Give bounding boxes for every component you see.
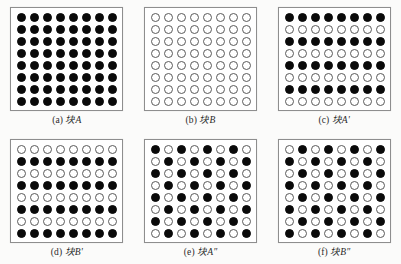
grid-cell (374, 95, 387, 107)
grid-cell (322, 191, 335, 203)
grid-cell (201, 71, 214, 83)
grid-cell (283, 59, 296, 71)
grid-cell (15, 71, 28, 83)
empty-circle-icon (285, 97, 294, 106)
empty-circle-icon (311, 169, 320, 178)
grid-cell (296, 35, 309, 47)
grid-cell (54, 155, 67, 167)
filled-circle-icon (69, 61, 78, 70)
filled-circle-icon (82, 157, 91, 166)
filled-circle-icon (95, 73, 104, 82)
filled-circle-icon (95, 97, 104, 106)
grid-cell (93, 215, 106, 227)
empty-circle-icon (82, 169, 91, 178)
empty-circle-icon (151, 13, 160, 22)
grid-cell (201, 35, 214, 47)
grid-cell (361, 95, 374, 107)
filled-circle-icon (285, 37, 294, 46)
grid-cell (322, 23, 335, 35)
empty-circle-icon (216, 37, 225, 46)
filled-circle-icon (43, 49, 52, 58)
empty-circle-icon (177, 97, 186, 106)
grid-cell (106, 155, 119, 167)
filled-circle-icon (229, 217, 238, 226)
grid-cell (106, 83, 119, 95)
grid-cell (348, 155, 361, 167)
grid-cell (240, 179, 253, 191)
grid-cell (162, 215, 175, 227)
filled-circle-icon (95, 61, 104, 70)
grid-cell (93, 23, 106, 35)
filled-circle-icon (311, 181, 320, 190)
panel-c-caption-label: 块A' (332, 115, 350, 125)
empty-circle-icon (151, 181, 160, 190)
empty-circle-icon (203, 157, 212, 166)
grid-cell (322, 203, 335, 215)
grid-cell (322, 143, 335, 155)
panel-f-grid (278, 139, 391, 243)
grid-cell (283, 95, 296, 107)
grid-cell (175, 71, 188, 83)
panel-a-caption: (a) 块A (52, 116, 81, 126)
empty-circle-icon (350, 73, 359, 82)
empty-circle-icon (151, 73, 160, 82)
grid-cell (361, 215, 374, 227)
grid-cell (54, 47, 67, 59)
empty-circle-icon (95, 193, 104, 202)
grid-cell (149, 167, 162, 179)
grid-cell (175, 35, 188, 47)
filled-circle-icon (17, 13, 26, 22)
filled-circle-icon (285, 85, 294, 94)
grid-cell (175, 155, 188, 167)
grid-cell (28, 191, 41, 203)
panel-c: (c) 块A' (267, 0, 401, 132)
empty-circle-icon (376, 157, 385, 166)
grid-cell (322, 35, 335, 47)
grid-cell (322, 59, 335, 71)
filled-circle-icon (190, 181, 199, 190)
filled-circle-icon (363, 205, 372, 214)
grid-cell (80, 71, 93, 83)
filled-circle-icon (30, 37, 39, 46)
grid-cell (188, 215, 201, 227)
empty-circle-icon (298, 181, 307, 190)
empty-circle-icon (17, 145, 26, 154)
filled-circle-icon (363, 85, 372, 94)
empty-circle-icon (242, 25, 251, 34)
grid-cell (348, 167, 361, 179)
empty-circle-icon (177, 25, 186, 34)
empty-circle-icon (350, 229, 359, 238)
grid-cell (240, 23, 253, 35)
filled-circle-icon (69, 229, 78, 238)
grid-cell (67, 35, 80, 47)
grid-cell (15, 215, 28, 227)
grid-cell (188, 11, 201, 23)
grid-cell (54, 23, 67, 35)
grid-cell (309, 47, 322, 59)
grid-cell (361, 227, 374, 239)
empty-circle-icon (30, 145, 39, 154)
grid-cell (41, 191, 54, 203)
grid-cell (188, 167, 201, 179)
empty-circle-icon (363, 49, 372, 58)
grid-cell (335, 203, 348, 215)
grid-cell (227, 179, 240, 191)
grid-cell (309, 203, 322, 215)
grid-cell (67, 167, 80, 179)
grid-cell (28, 59, 41, 71)
empty-circle-icon (177, 229, 186, 238)
empty-circle-icon (337, 73, 346, 82)
grid-cell (80, 35, 93, 47)
grid-cell (15, 179, 28, 191)
empty-circle-icon (324, 49, 333, 58)
grid-cell (28, 143, 41, 155)
grid-cell (283, 191, 296, 203)
empty-circle-icon (324, 97, 333, 106)
grid-cell (361, 47, 374, 59)
grid-cell (188, 35, 201, 47)
filled-circle-icon (177, 217, 186, 226)
grid-cell (348, 191, 361, 203)
empty-circle-icon (337, 193, 346, 202)
empty-circle-icon (216, 25, 225, 34)
grid-cell (240, 71, 253, 83)
